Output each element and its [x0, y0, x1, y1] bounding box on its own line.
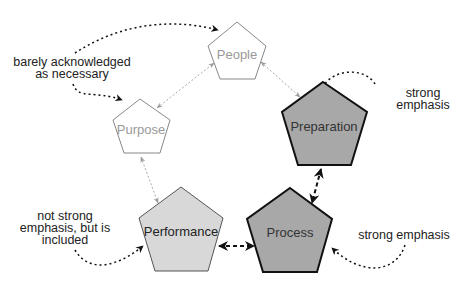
- annotation-strong-process: strong emphasis: [358, 228, 450, 242]
- node-label-purpose: Purpose: [117, 122, 165, 137]
- annotation-barely: barely acknowledged as necessary: [13, 55, 130, 81]
- edge-preparation-process: [312, 169, 321, 203]
- edge-people-preparation: [261, 62, 300, 97]
- node-label-preparation: Preparation: [290, 119, 357, 134]
- node-process: Process: [247, 188, 332, 272]
- annotation-arrow-strong-to-process: [332, 245, 405, 268]
- node-label-people: People: [217, 47, 257, 62]
- annotation-arrow-notstrong-to-performance: [75, 246, 143, 265]
- edge-purpose-performance: [141, 157, 158, 203]
- annotation-arrow-barely-to-people: [75, 24, 218, 53]
- edge-purpose-people: [157, 63, 214, 108]
- annotation-strong-preparation: strong emphasis: [396, 86, 450, 112]
- annotation-not-strong: not strong emphasis, but is included: [20, 209, 110, 247]
- node-people: People: [208, 22, 266, 79]
- pentagon-diagram: People Purpose Preparation Performance P…: [0, 0, 468, 287]
- node-label-process: Process: [267, 225, 314, 240]
- node-purpose: Purpose: [113, 99, 170, 153]
- annotation-strong-prep-line2: emphasis: [396, 98, 450, 112]
- annotation-notstrong-line3: included: [42, 233, 89, 247]
- node-label-performance: Performance: [144, 224, 218, 239]
- annotation-strong-process-line1: strong emphasis: [358, 228, 450, 242]
- annotation-arrow-barely-to-purpose: [73, 84, 122, 100]
- node-performance: Performance: [139, 187, 223, 271]
- node-preparation: Preparation: [282, 82, 367, 165]
- annotation-barely-line2: as necessary: [35, 67, 109, 81]
